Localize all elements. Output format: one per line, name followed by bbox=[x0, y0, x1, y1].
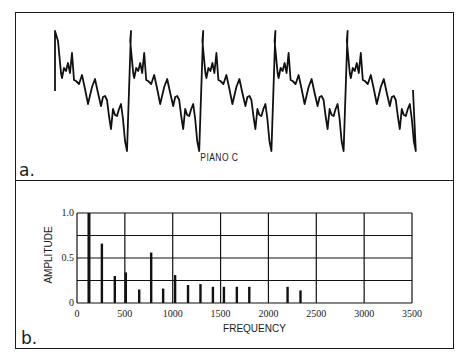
panel-b-spectrum: 050010001500200025003000350000.51.0FREQU… bbox=[15, 180, 454, 349]
x-axis-label: FREQUENCY bbox=[223, 323, 286, 334]
y-axis-label: AMPLITUDE bbox=[43, 226, 54, 284]
svg-text:0: 0 bbox=[75, 308, 80, 319]
panel-b-label: b. bbox=[21, 328, 37, 348]
spectrum-bar bbox=[299, 290, 301, 303]
spectrum-bar bbox=[162, 289, 164, 303]
spectrum-bar bbox=[223, 287, 225, 303]
svg-text:3500: 3500 bbox=[402, 308, 422, 319]
svg-text:0.5: 0.5 bbox=[62, 252, 75, 263]
svg-text:2500: 2500 bbox=[306, 308, 326, 319]
spectrum-bar-chart: 050010001500200025003000350000.51.0FREQU… bbox=[16, 181, 455, 350]
spectrum-bar bbox=[212, 287, 214, 303]
x-tick-labels: 0500100015002000250030003500 bbox=[75, 308, 423, 319]
svg-text:500: 500 bbox=[117, 308, 132, 319]
svg-text:2000: 2000 bbox=[258, 308, 278, 319]
spectrum-bar bbox=[125, 272, 127, 303]
spectrum-bar bbox=[101, 244, 103, 303]
svg-text:3000: 3000 bbox=[354, 308, 374, 319]
svg-text:1.0: 1.0 bbox=[62, 207, 75, 218]
spectrum-bar bbox=[199, 284, 201, 303]
waveform-line bbox=[55, 31, 416, 151]
spectrum-bar bbox=[236, 287, 238, 303]
svg-text:1000: 1000 bbox=[163, 308, 183, 319]
spectrum-bar bbox=[150, 253, 152, 303]
y-tick-labels: 00.51.0 bbox=[62, 207, 75, 308]
panel-a-label: a. bbox=[19, 160, 35, 180]
spectrum-bar bbox=[286, 287, 288, 303]
waveform-caption: PIANO C bbox=[200, 152, 238, 163]
svg-text:0: 0 bbox=[69, 297, 74, 308]
spectrum-bar bbox=[248, 287, 250, 303]
spectrum-bar bbox=[187, 285, 189, 303]
spectrum-bar bbox=[87, 213, 90, 303]
grid bbox=[77, 213, 412, 303]
spectrum-bar bbox=[138, 290, 140, 304]
svg-text:1500: 1500 bbox=[211, 308, 231, 319]
spectrum-bar bbox=[114, 276, 116, 303]
spectrum-bar bbox=[174, 275, 176, 303]
panel-a-waveform: PIANO C a. bbox=[15, 12, 454, 181]
